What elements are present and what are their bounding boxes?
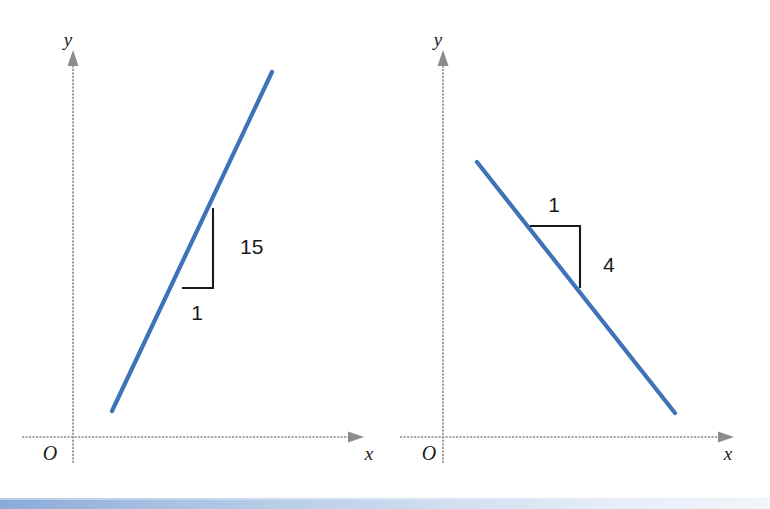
figure-root: y x O 15 1 y x O <box>0 0 770 509</box>
figure-canvas: y x O 15 1 y x O <box>0 0 770 509</box>
right-data-line <box>477 162 675 413</box>
right-y-axis <box>438 50 449 463</box>
left-y-axis-label: y <box>62 29 73 50</box>
left-x-axis-arrowhead <box>348 432 364 443</box>
right-run-label: 1 <box>548 193 560 216</box>
left-origin-label: O <box>43 442 57 464</box>
right-rise-label: 4 <box>603 253 615 276</box>
left-y-axis-arrowhead <box>68 50 79 66</box>
left-rise-label: 15 <box>240 235 263 258</box>
accent-band <box>0 500 770 509</box>
right-origin-label: O <box>422 442 436 464</box>
right-y-axis-label: y <box>432 29 443 50</box>
right-x-axis-arrowhead <box>718 432 734 443</box>
left-x-axis-label: x <box>364 443 374 464</box>
left-y-axis <box>68 50 79 463</box>
left-panel: y x O 15 1 <box>22 29 374 464</box>
right-x-axis-label: x <box>723 443 733 464</box>
right-x-axis <box>400 432 734 443</box>
left-run-label: 1 <box>191 301 203 324</box>
right-y-axis-arrowhead <box>438 50 449 66</box>
right-slope-triangle-bracket <box>530 226 580 288</box>
right-panel: y x O 1 4 <box>400 29 734 464</box>
